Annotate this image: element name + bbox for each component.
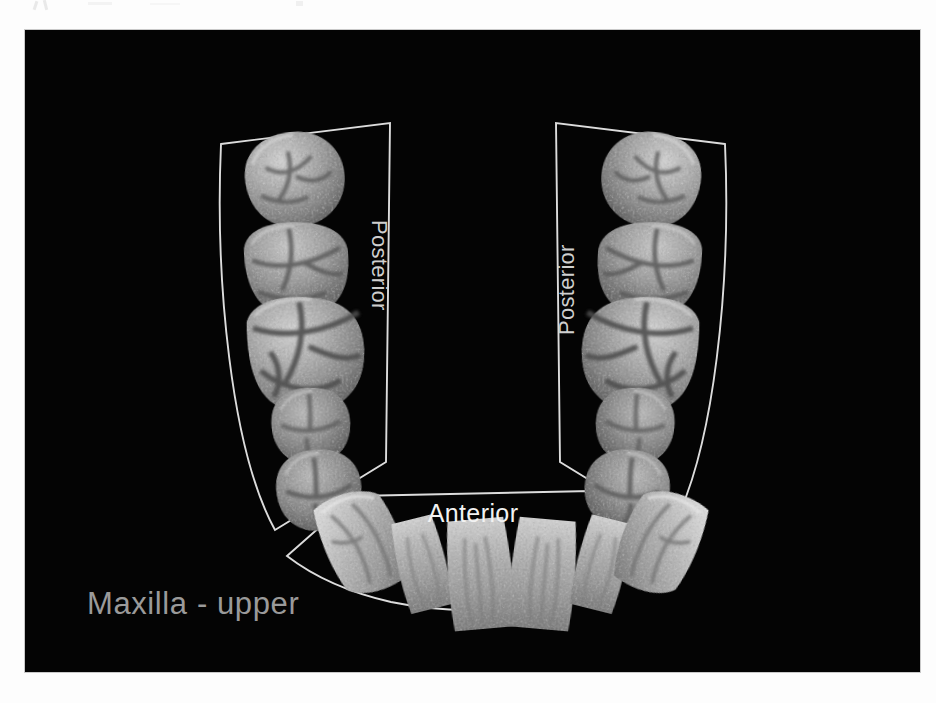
tooth-posterior-left-third-molar [242, 129, 348, 231]
posterior-left-label: Posterior [367, 220, 392, 311]
tooth-posterior-right-third-molar [598, 129, 704, 231]
scan-artifact [43, 0, 48, 10]
tooth-anterior-central-incisor-right [506, 516, 580, 631]
scan-artifact [296, 1, 303, 6]
posterior-right-label: Posterior [554, 244, 579, 335]
posterior-left-teeth [242, 129, 366, 534]
tooth-anterior-central-incisor-left [443, 516, 517, 631]
tooth-anterior-lateral-incisor-left [387, 514, 456, 615]
arch-label: Maxilla - upper [87, 586, 299, 621]
anterior-label: Anterior [428, 499, 519, 527]
figure-page: Posterior Posterior Anterior Maxilla - u… [0, 0, 936, 703]
scan-artifact [88, 2, 112, 5]
scan-artifact [33, 1, 39, 10]
radiograph-plate: Posterior Posterior Anterior Maxilla - u… [25, 30, 920, 672]
scan-artifact [150, 3, 180, 5]
posterior-right-teeth [580, 129, 704, 534]
